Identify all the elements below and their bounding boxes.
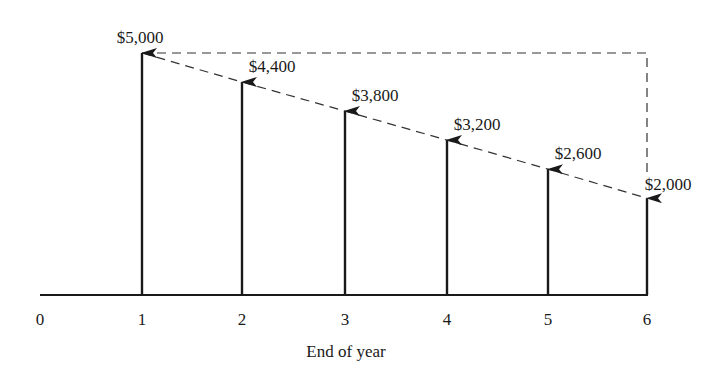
x-tick-label: 1 — [138, 310, 147, 329]
x-tick-label: 3 — [341, 310, 350, 329]
arrow-value-label: $2,000 — [645, 175, 692, 194]
arrow-value-label: $3,200 — [454, 115, 501, 134]
cash-flow-diagram: $5,000$4,400$3,800$3,200$2,600$2,000 012… — [0, 0, 726, 378]
arrow-value-label: $3,800 — [352, 86, 399, 105]
x-axis-label: End of year — [306, 342, 386, 361]
dashed-lines — [142, 53, 647, 198]
arrow-value-label: $5,000 — [117, 28, 164, 47]
x-tick-label: 0 — [36, 310, 45, 329]
x-tick-label: 2 — [238, 310, 247, 329]
x-axis-ticks: 0123456 — [36, 310, 652, 329]
x-tick-label: 4 — [443, 310, 452, 329]
arrow-value-label: $4,400 — [249, 57, 296, 76]
x-tick-label: 6 — [643, 310, 652, 329]
x-tick-label: 5 — [544, 310, 553, 329]
arrow-value-label: $2,600 — [555, 144, 602, 163]
declining-dashed-line — [142, 53, 647, 198]
cash-flow-arrows: $5,000$4,400$3,800$3,200$2,600$2,000 — [117, 28, 692, 295]
